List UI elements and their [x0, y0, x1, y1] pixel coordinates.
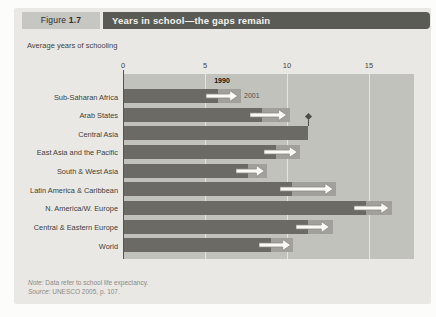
- category-label: East Asia and the Pacific: [14, 148, 118, 157]
- bar-1990: [124, 220, 309, 234]
- category-label: Latin America & Caribbean: [14, 186, 118, 195]
- category-label: Central & Eastern Europe: [14, 223, 118, 232]
- bar-chart: 051015 Sub-Saharan AfricaArab StatesCent…: [14, 8, 431, 304]
- category-label: N. America/W. Europe: [14, 204, 118, 213]
- category-label: Central Asia: [14, 130, 118, 139]
- bar-1990: [124, 145, 276, 159]
- figure-card: Figure 1.7 Years in school—the gaps rema…: [14, 8, 431, 304]
- bar-1990: [124, 182, 292, 196]
- growth-arrow-icon: [259, 238, 292, 252]
- bar-1990: [124, 201, 366, 215]
- growth-arrow-icon: [296, 220, 330, 234]
- source-line: Source: UNESCO 2005, p. 107.: [28, 287, 148, 296]
- source-text: UNESCO 2005, p. 107.: [52, 288, 120, 295]
- growth-arrow-icon: [354, 201, 390, 215]
- category-label: South & West Asia: [14, 167, 118, 176]
- bar-1990: [124, 89, 219, 103]
- growth-arrow-icon: [206, 89, 239, 103]
- figure-notes: Note: Data refer to school life expectan…: [28, 278, 148, 296]
- series-label-2001: 2001: [244, 92, 260, 99]
- marker-stem: [308, 120, 309, 126]
- bar-1990: [124, 108, 263, 122]
- bar-1990: [124, 126, 309, 140]
- category-label: Sub-Saharan Africa: [14, 93, 118, 102]
- bar-1990: [124, 238, 271, 252]
- note-text: Data refer to school life expectancy.: [45, 279, 148, 286]
- bar-1990: [124, 164, 248, 178]
- category-label: World: [14, 242, 118, 251]
- x-tick-label: 5: [203, 61, 207, 70]
- note-line: Note: Data refer to school life expectan…: [28, 278, 148, 287]
- page: Figure 1.7 Years in school—the gaps rema…: [0, 0, 436, 317]
- growth-arrow-icon: [236, 164, 265, 178]
- growth-arrow-icon: [250, 108, 288, 122]
- x-tick-label: 10: [283, 61, 291, 70]
- gridline: [369, 74, 370, 259]
- growth-arrow-icon: [280, 182, 334, 196]
- x-tick-label: 15: [365, 61, 373, 70]
- source-label: Source:: [28, 288, 50, 295]
- note-label: Note:: [28, 279, 44, 286]
- category-label: Arab States: [14, 111, 118, 120]
- series-label-1990: 1990: [214, 77, 230, 84]
- x-tick-label: 0: [121, 61, 125, 70]
- growth-arrow-icon: [264, 145, 298, 159]
